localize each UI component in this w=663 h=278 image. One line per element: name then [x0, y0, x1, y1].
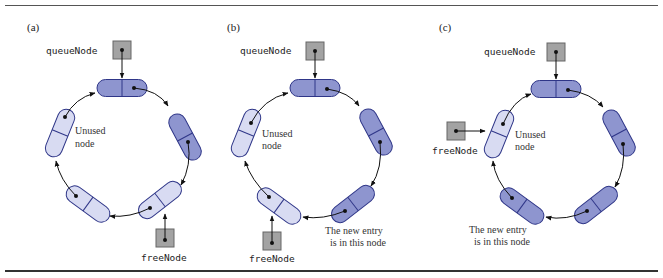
queue-node-2: [357, 106, 395, 158]
queue-node-3: [571, 183, 621, 227]
panel-label: (b): [227, 21, 240, 34]
new-entry-label-2: is in this node: [330, 237, 386, 248]
queue-node-1: [531, 81, 581, 98]
unused-node-label: Unused: [262, 128, 293, 139]
free-node-label: freeNode: [432, 145, 478, 156]
panel-label: (c): [439, 21, 452, 34]
unused-node-label-2: node: [75, 138, 95, 149]
queue-node-2: [166, 111, 204, 163]
queue-node-3: [135, 178, 185, 222]
queue-node-4: [63, 182, 113, 225]
queue-node-1: [290, 80, 340, 97]
panel-a: (a) queueNode Unused node freeNode: [27, 21, 204, 263]
queue-node-1: [97, 80, 147, 97]
queue-node-2: [600, 107, 638, 159]
queue-node-label: queueNode: [240, 45, 292, 56]
queue-node-label: queueNode: [484, 46, 536, 57]
panel-label: (a): [27, 21, 40, 34]
queue-node-5-unused: [43, 107, 77, 160]
panel-b: (b) queueNode Unused node The new entry …: [227, 21, 395, 264]
queue-node-4-new-entry: [497, 184, 547, 227]
queue-node-5-unused: [229, 107, 263, 160]
queue-node-5-unused: [482, 108, 516, 161]
new-entry-label-2: is in this node: [474, 236, 530, 247]
unused-node-label: Unused: [75, 125, 106, 136]
unused-node-label: Unused: [515, 129, 546, 140]
new-entry-label: The new entry: [325, 225, 383, 236]
unused-node-label-2: node: [515, 141, 535, 152]
new-entry-label: The new entry: [469, 224, 527, 235]
queue-node-4: [254, 184, 304, 227]
queue-node-3-new-entry: [328, 182, 378, 226]
circular-queue-diagram: (a) queueNode Unused node freeNode (b) q…: [0, 0, 663, 278]
unused-node-label-2: node: [262, 140, 282, 151]
queue-node-label: queueNode: [46, 45, 98, 56]
free-node-label: freeNode: [141, 252, 187, 263]
free-node-label: freeNode: [249, 253, 295, 264]
panel-c: (c) queueNode Unused node The new entry …: [432, 21, 638, 247]
